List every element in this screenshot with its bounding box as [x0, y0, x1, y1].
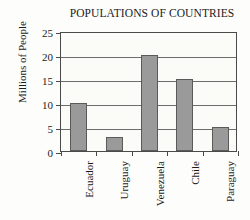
y-tick-mark [56, 57, 61, 58]
x-axis-label: Chile [189, 161, 201, 185]
x-tick-mark [61, 151, 62, 156]
bar-chart: POPULATIONS OF COUNTRIES Millions of Peo… [0, 0, 250, 220]
x-tick-mark [238, 151, 239, 156]
bar [106, 137, 123, 151]
bar [176, 79, 193, 151]
y-tick-label: 10 [42, 100, 53, 111]
bar [141, 55, 158, 151]
x-tick-mark [132, 151, 133, 156]
x-tick-mark [203, 151, 204, 156]
y-tick-label: 0 [48, 148, 54, 159]
y-tick-mark [56, 33, 61, 34]
x-tick-mark [96, 151, 97, 156]
chart-title: POPULATIONS OF COUNTRIES [62, 7, 242, 19]
y-axis-title: Millions of People [16, 2, 28, 122]
bar [212, 127, 229, 151]
x-axis-label: Uruguay [118, 161, 130, 200]
x-tick-mark [167, 151, 168, 156]
y-tick-label: 5 [48, 124, 54, 135]
y-tick-mark [56, 81, 61, 82]
x-axis-label: Ecuador [83, 161, 95, 198]
plot-area: 0510152025 [60, 32, 237, 152]
y-tick-label: 20 [42, 52, 53, 63]
x-axis-label: Paraguay [224, 161, 236, 202]
y-tick-label: 25 [42, 28, 53, 39]
y-tick-label: 15 [42, 76, 53, 87]
bar [70, 103, 87, 151]
y-tick-mark [56, 105, 61, 106]
y-tick-mark [56, 129, 61, 130]
x-axis-label: Venezuela [154, 161, 166, 206]
